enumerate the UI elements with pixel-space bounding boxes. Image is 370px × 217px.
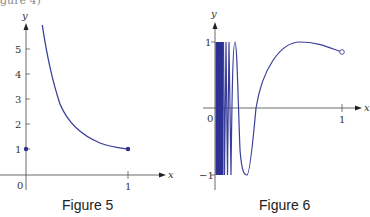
y-axis-arrow-icon: [213, 22, 218, 29]
x-axis-label: x: [364, 102, 370, 113]
y-tick-2: 2: [15, 119, 21, 130]
figure-6-caption: Figure 6: [259, 197, 310, 213]
figure-5-chart: 5 4 3 2 1 0 1 x y: [0, 0, 185, 217]
origin-label: 0: [17, 180, 23, 191]
x-axis-label: x: [168, 169, 174, 180]
y-tick-1: 1: [15, 144, 21, 155]
x-tick-1: 1: [339, 114, 345, 125]
y-axis-label: y: [210, 8, 217, 19]
curve-f: [42, 25, 128, 149]
y-tick-5: 5: [15, 44, 21, 55]
y-tick-1: 1: [205, 37, 211, 48]
y-axis-arrow-icon: [24, 23, 29, 30]
y-axis-label: y: [21, 10, 28, 21]
y-tick-3: 3: [15, 94, 21, 105]
closed-point-0-1: [24, 147, 28, 151]
dense-oscillation: [216, 42, 224, 175]
open-endpoint: [340, 50, 345, 55]
closed-point-1-1: [126, 147, 130, 151]
x-tick-1: 1: [125, 181, 131, 192]
y-tick-4: 4: [15, 69, 21, 80]
x-axis-arrow-icon: [355, 106, 362, 111]
origin-label: 0: [207, 113, 213, 124]
curve-g: [224, 42, 343, 175]
figure-5-caption: Figure 5: [62, 197, 113, 213]
y-tick-neg1: −1: [199, 170, 214, 181]
figure-6-chart: 1 −1 0 1 x y: [185, 0, 370, 217]
x-axis-arrow-icon: [159, 173, 166, 178]
